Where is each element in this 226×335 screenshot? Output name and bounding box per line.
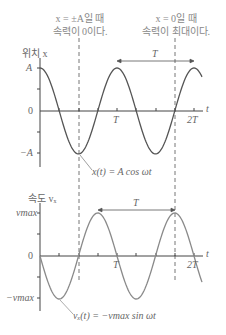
period-arrow-bottom [98,208,175,212]
velocity-period-label: T [133,197,139,208]
position-ylabel: 위치 x [22,45,48,60]
position-period-label: T [152,48,158,59]
period-arrow-top [117,59,194,63]
position-xlabel: t [206,103,209,114]
note-speed-zero: x = ±A일 때 속력이 0이다. [44,12,116,38]
velocity-ylabel: 속도 vₓ [28,190,56,205]
note-speed-max-line2: 속력이 최대이다. [136,25,216,38]
position-equation: x(t) = A cos ωt [92,166,152,177]
equation-leader-top [80,155,92,170]
note-speed-zero-line1: x = ±A일 때 [44,12,116,25]
position-axes [37,58,203,167]
position-tick-T: T [113,114,119,125]
position-y-top-label: A [26,62,32,73]
velocity-axes [37,203,203,311]
position-tick-2T: 2T [187,114,198,125]
velocity-tick-T: T [113,259,119,270]
position-y-zero-label: 0 [28,105,33,116]
note-speed-zero-line2: 속력이 0이다. [44,25,116,38]
position-y-bottom-label: −A [20,147,33,158]
equation-leader-bottom [60,300,73,314]
note-speed-max: x = 0일 때 속력이 최대이다. [136,12,216,38]
velocity-xlabel: t [206,248,209,259]
velocity-y-bottom-label: −vmax [6,292,34,303]
velocity-tick-2T: 2T [187,259,198,270]
velocity-equation: vₓ(t) = −vmax sin ωt [73,310,156,321]
note-speed-max-line1: x = 0일 때 [136,12,216,25]
velocity-y-zero-label: 0 [28,250,33,261]
velocity-y-top-label: vmax [16,207,37,218]
